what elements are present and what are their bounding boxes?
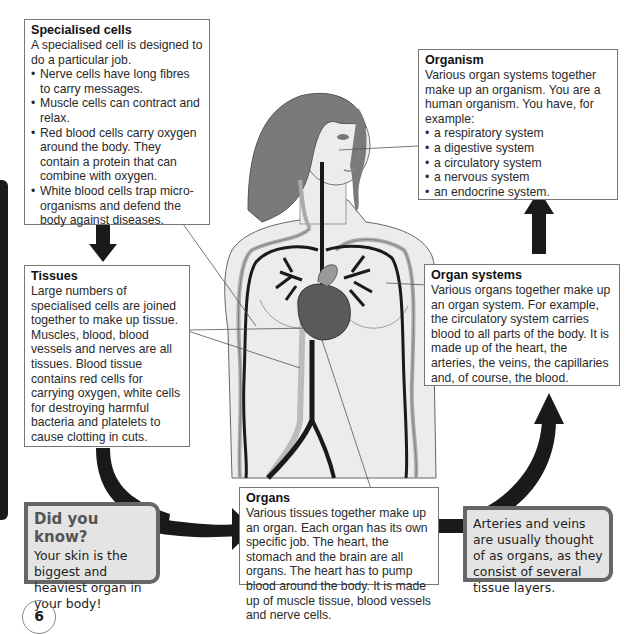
did-you-know-text: Your skin is the biggest and heaviest or…: [34, 548, 150, 612]
organism-title: Organism: [425, 53, 611, 68]
organs-box: Organs Various tissues together make up …: [239, 487, 439, 585]
did-you-know-title: Did you know?: [34, 510, 150, 546]
specialised-cells-intro: A specialised cell is designed to do a p…: [31, 38, 203, 67]
page-number: 6: [22, 600, 56, 634]
list-item: Muscle cells can contract and relax.: [31, 96, 203, 125]
organism-intro: Various organ systems together make up a…: [425, 68, 611, 126]
tissues-text-2: Muscles, blood, blood vessels and nerves…: [31, 328, 183, 445]
tissues-title: Tissues: [31, 269, 183, 284]
organ-systems-box: Organ systems Various organs together ma…: [424, 264, 620, 386]
arteries-note-text: Arteries and veins are usually thought o…: [473, 516, 603, 596]
list-item: Red blood cells carry oxygen around the …: [31, 126, 203, 184]
tissues-box: Tissues Large numbers of specialised cel…: [24, 265, 190, 447]
list-item: Nerve cells have long fibres to carry me…: [31, 67, 203, 96]
did-you-know-callout: Did you know? Your skin is the biggest a…: [24, 502, 160, 584]
list-item: a circulatory system: [425, 156, 611, 171]
organs-title: Organs: [246, 491, 432, 506]
organ-systems-title: Organ systems: [431, 268, 613, 283]
arteries-note-callout: Arteries and veins are usually thought o…: [463, 506, 613, 582]
specialised-cells-box: Specialised cells A specialised cell is …: [24, 19, 210, 225]
list-item: White blood cells trap micro-organisms a…: [31, 184, 203, 228]
specialised-cells-title: Specialised cells: [31, 23, 203, 38]
list-item: an endocrine system.: [425, 185, 611, 200]
tissues-text-1: Large numbers of specialised cells are j…: [31, 284, 183, 328]
organs-text: Various tissues together make up an orga…: [246, 506, 432, 623]
body-figure: [225, 93, 437, 478]
list-item: a digestive system: [425, 141, 611, 156]
organism-box: Organism Various organ systems together …: [418, 49, 618, 200]
organism-list: a respiratory system a digestive system …: [425, 126, 611, 199]
arrow-cells-to-tissues: [96, 225, 110, 247]
list-item: a respiratory system: [425, 126, 611, 141]
organ-systems-text: Various organs together make up an organ…: [431, 283, 613, 385]
list-item: a nervous system: [425, 170, 611, 185]
specialised-cells-list: Nerve cells have long fibres to carry me…: [31, 67, 203, 228]
